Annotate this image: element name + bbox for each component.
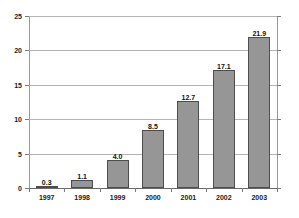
x-axis-category-label: 1998: [64, 194, 99, 201]
x-tick-mark: [29, 188, 30, 192]
y-tick-mark-right-20: [277, 50, 281, 51]
gridline-0: 0: [29, 188, 277, 189]
bar-slot-2001: 12.7: [171, 16, 206, 188]
bar-series: 0.31.14.08.512.717.121.9: [29, 16, 277, 188]
bar-slot-2002: 17.1: [206, 16, 241, 188]
bar-slot-2000: 8.5: [135, 16, 170, 188]
x-axis-category-label: 1999: [100, 194, 135, 201]
x-axis-labels: 1997199819992000200120022003: [29, 194, 277, 201]
bar-2000: 8.5: [142, 130, 164, 188]
y-tick-mark-right-5: [277, 154, 281, 155]
y-axis-right-spine: [277, 16, 278, 189]
bar-value-label-1998: 1.1: [77, 173, 87, 180]
y-tick-mark-right-15: [277, 85, 281, 86]
y-axis-tick-label: 10: [14, 116, 22, 123]
y-axis-tick-label: 5: [18, 150, 22, 157]
bar-1997: 0.3: [36, 186, 58, 188]
bar-1998: 1.1: [71, 180, 93, 188]
x-tick-mark: [242, 188, 243, 192]
x-tick-mark: [171, 188, 172, 192]
x-tick-mark: [206, 188, 207, 192]
x-axis-category-label: 2003: [242, 194, 277, 201]
y-axis-tick-label: 25: [14, 13, 22, 20]
bar-chart: 0510152025 0.31.14.08.512.717.121.9 1997…: [0, 0, 299, 218]
x-tick-mark: [100, 188, 101, 192]
bar-value-label-2001: 12.7: [182, 94, 196, 101]
bar-value-label-1997: 0.3: [42, 179, 52, 186]
bar-slot-1999: 4.0: [100, 16, 135, 188]
bar-value-label-2003: 21.9: [252, 30, 266, 37]
bar-value-label-2000: 8.5: [148, 123, 158, 130]
y-axis-tick-label: 15: [14, 81, 22, 88]
y-axis-tick-label: 0: [18, 185, 22, 192]
bar-2003: 21.9: [248, 37, 270, 188]
bar-slot-2003: 21.9: [242, 16, 277, 188]
bar-value-label-2002: 17.1: [217, 63, 231, 70]
x-axis-category-label: 2002: [206, 194, 241, 201]
bar-2002: 17.1: [213, 70, 235, 188]
x-axis-category-label: 1997: [29, 194, 64, 201]
bar-2001: 12.7: [177, 101, 199, 188]
y-tick-mark-right-10: [277, 119, 281, 120]
bar-1999: 4.0: [107, 160, 129, 188]
x-tick-mark: [135, 188, 136, 192]
y-tick-mark-right-25: [277, 16, 281, 17]
x-axis-category-label: 2000: [135, 194, 170, 201]
x-tick-mark: [277, 188, 278, 192]
bar-value-label-1999: 4.0: [113, 153, 123, 160]
bar-slot-1997: 0.3: [29, 16, 64, 188]
bar-slot-1998: 1.1: [64, 16, 99, 188]
y-axis-tick-label: 20: [14, 47, 22, 54]
x-tick-mark: [64, 188, 65, 192]
plot-area: 0510152025 0.31.14.08.512.717.121.9: [29, 16, 277, 188]
x-axis-category-label: 2001: [171, 194, 206, 201]
